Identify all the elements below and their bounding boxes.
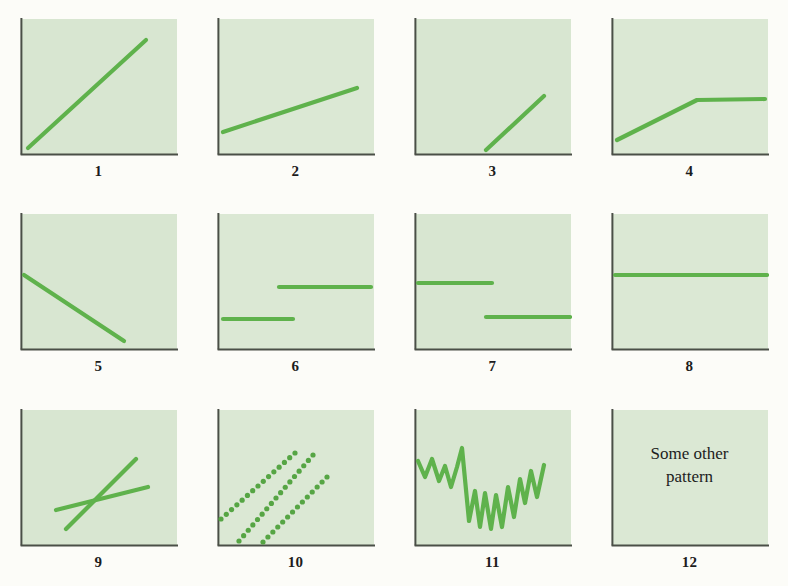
dot bbox=[319, 479, 324, 484]
dot bbox=[250, 488, 255, 493]
dot bbox=[278, 490, 283, 495]
panel-background bbox=[218, 214, 374, 350]
panel-label-2: 2 bbox=[292, 163, 300, 180]
panel-label-6: 6 bbox=[292, 358, 300, 375]
dot bbox=[264, 506, 269, 511]
dot bbox=[291, 474, 296, 479]
dot bbox=[309, 489, 314, 494]
dot bbox=[234, 502, 239, 507]
panel-text-line-2: pattern bbox=[611, 466, 769, 489]
dot bbox=[285, 514, 290, 519]
dot bbox=[268, 500, 273, 505]
dot bbox=[265, 534, 270, 539]
panel-5 bbox=[20, 213, 178, 351]
panel-background bbox=[218, 19, 374, 155]
panel-background bbox=[21, 410, 177, 546]
dot bbox=[280, 519, 285, 524]
dot bbox=[281, 459, 286, 464]
panel-8 bbox=[611, 213, 769, 351]
panel-9 bbox=[20, 409, 178, 547]
panel-label-3: 3 bbox=[489, 163, 497, 180]
panel-12: Some otherpattern bbox=[611, 409, 769, 547]
panel-label-4: 4 bbox=[686, 163, 694, 180]
dot bbox=[287, 479, 292, 484]
dot bbox=[314, 484, 319, 489]
dot bbox=[254, 517, 259, 522]
panel-label-11: 11 bbox=[485, 554, 500, 571]
panel-cell-11: 11 bbox=[394, 391, 591, 586]
panel-4 bbox=[611, 18, 769, 156]
panel-11 bbox=[414, 409, 572, 547]
dot bbox=[245, 527, 250, 532]
panel-label-10: 10 bbox=[288, 554, 304, 571]
dot bbox=[270, 529, 275, 534]
panel-1 bbox=[20, 18, 178, 156]
dot bbox=[223, 511, 228, 516]
dot bbox=[260, 539, 265, 544]
panel-text-line-1: Some other bbox=[611, 443, 769, 466]
dot bbox=[260, 478, 265, 483]
dot bbox=[244, 492, 249, 497]
dot bbox=[218, 516, 223, 521]
dot bbox=[236, 538, 241, 543]
panel-cell-7: 7 bbox=[394, 195, 591, 390]
panel-cell-3: 3 bbox=[394, 0, 591, 195]
panel-background bbox=[612, 214, 768, 350]
panel-cell-9: 9 bbox=[0, 391, 197, 586]
panel-cell-8: 8 bbox=[591, 195, 788, 390]
panel-background bbox=[21, 214, 177, 350]
dot bbox=[299, 499, 304, 504]
panel-7 bbox=[414, 213, 572, 351]
dot bbox=[239, 497, 244, 502]
dot bbox=[265, 474, 270, 479]
dot bbox=[282, 484, 287, 489]
panel-background bbox=[612, 19, 768, 155]
dot bbox=[304, 494, 309, 499]
panel-text-block: Some otherpattern bbox=[611, 443, 769, 489]
dot bbox=[287, 455, 292, 460]
dot bbox=[289, 509, 294, 514]
dot bbox=[271, 469, 276, 474]
panel-cell-12: Some otherpattern12 bbox=[591, 391, 788, 586]
panel-cell-2: 2 bbox=[197, 0, 394, 195]
dot bbox=[250, 522, 255, 527]
dot bbox=[255, 483, 260, 488]
panel-background bbox=[415, 19, 571, 155]
dot bbox=[310, 452, 315, 457]
panel-label-7: 7 bbox=[489, 358, 497, 375]
panel-cell-10: 10 bbox=[197, 391, 394, 586]
panel-label-8: 8 bbox=[686, 358, 694, 375]
panel-label-1: 1 bbox=[95, 163, 103, 180]
panel-label-12: 12 bbox=[682, 554, 698, 571]
panel-cell-1: 1 bbox=[0, 0, 197, 195]
dot bbox=[273, 495, 278, 500]
panel-cell-6: 6 bbox=[197, 195, 394, 390]
panel-2 bbox=[217, 18, 375, 156]
dot bbox=[228, 507, 233, 512]
panel-10 bbox=[217, 409, 375, 547]
dot bbox=[292, 450, 297, 455]
panel-grid: 1234567891011Some otherpattern12 bbox=[0, 0, 788, 586]
panel-cell-5: 5 bbox=[0, 195, 197, 390]
panel-label-9: 9 bbox=[95, 554, 103, 571]
dot bbox=[301, 463, 306, 468]
dot bbox=[259, 511, 264, 516]
panel-label-5: 5 bbox=[95, 358, 103, 375]
dot bbox=[276, 464, 281, 469]
dot bbox=[324, 474, 329, 479]
dot bbox=[296, 468, 301, 473]
panel-6 bbox=[217, 213, 375, 351]
dot bbox=[241, 533, 246, 538]
dot bbox=[305, 457, 310, 462]
figure-sheet: 1234567891011Some otherpattern12 bbox=[0, 0, 788, 586]
panel-cell-4: 4 bbox=[591, 0, 788, 195]
panel-3 bbox=[414, 18, 572, 156]
dot bbox=[275, 524, 280, 529]
dot bbox=[294, 504, 299, 509]
